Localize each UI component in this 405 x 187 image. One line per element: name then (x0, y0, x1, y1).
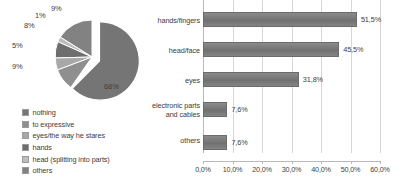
xtick-10 (233, 161, 234, 164)
xtick-30 (292, 161, 293, 164)
bar-value-label: 7,6% (231, 105, 247, 114)
legend-item-eyes-the-way-he-stares[interactable]: eyes/the way he stares (22, 130, 152, 142)
bar-value-label: 45,5% (343, 45, 363, 54)
bar-eyes[interactable] (203, 72, 299, 87)
bar-row-others[interactable]: 7,6% (203, 136, 248, 149)
legend-item-to-expressive[interactable]: to expressive (22, 119, 152, 131)
bar-value-label: 31,8% (303, 75, 323, 84)
xtick-label-50: 50,0% (341, 165, 360, 174)
legend-label: others (33, 166, 53, 175)
legend-item-hands[interactable]: hands (22, 142, 152, 154)
chart-page: 9% 1% 8% 5% 9% 68% nothing to expressive… (0, 0, 405, 187)
legend-swatch-icon (22, 109, 29, 116)
label-line: electronic parts (152, 101, 200, 110)
label-line: and cables (166, 110, 200, 119)
xtick-label-60: 60,0% (370, 165, 389, 174)
legend-label: hands (33, 143, 52, 152)
legend-item-nothing[interactable]: nothing (22, 107, 152, 119)
bar-row-hands-fingers[interactable]: 51,5% (203, 13, 381, 26)
bar-value-label: 7,6% (231, 138, 247, 147)
legend-item-others[interactable]: others (22, 165, 152, 177)
bar-value-label: 51,5% (361, 15, 381, 24)
bar-category-label-electronic-parts-and-cables: electronic parts and cables (140, 101, 200, 119)
bar-electronic-parts-and-cables[interactable] (203, 102, 227, 117)
pie-svg (0, 0, 150, 105)
pie-label-head: 1% (35, 11, 46, 20)
xtick-20 (262, 161, 263, 164)
bar-row-head-face[interactable]: 45,5% (203, 43, 363, 56)
label-line: hands/fingers (157, 16, 200, 25)
xtick-0 (203, 161, 204, 164)
pie-label-others: 9% (51, 4, 62, 13)
bar-category-label-head-face: head/face (140, 46, 200, 55)
bar-row-electronic-parts-and-cables[interactable]: 7,6% (203, 103, 248, 116)
xtick-label-40: 40,0% (311, 165, 330, 174)
pie-legend: nothing to expressive eyes/the way he st… (22, 107, 152, 177)
xtick-60 (380, 161, 381, 164)
xtick-50 (351, 161, 352, 164)
bar-row-eyes[interactable]: 31,8% (203, 73, 323, 86)
legend-label: nothing (33, 108, 56, 117)
xtick-label-0: 0,0% (195, 165, 211, 174)
legend-item-head-splitting-into-parts[interactable]: head (splitting into parts) (22, 153, 152, 165)
bar-chart-panel: hands/fingers head/face eyes electronic … (140, 0, 405, 187)
legend-swatch-icon (22, 167, 29, 174)
xtick-40 (321, 161, 322, 164)
label-line: head/face (169, 46, 200, 55)
bar-others[interactable] (203, 135, 227, 150)
label-line: others (180, 136, 200, 145)
pie-chart-graphic: 9% 1% 8% 5% 9% 68% (0, 0, 150, 105)
legend-label: eyes/the way he stares (33, 131, 105, 140)
legend-swatch-icon (22, 132, 29, 139)
xtick-label-30: 30,0% (282, 165, 301, 174)
legend-label: head (splitting into parts) (33, 155, 110, 164)
bar-head-face[interactable] (203, 42, 339, 57)
legend-label: to expressive (33, 120, 75, 129)
xtick-label-20: 20,0% (252, 165, 271, 174)
bar-category-label-eyes: eyes (140, 76, 200, 85)
legend-swatch-icon (22, 156, 29, 163)
pie-chart-panel: 9% 1% 8% 5% 9% 68% nothing to expressive… (0, 0, 150, 187)
pie-label-eyes: 5% (12, 41, 23, 50)
pie-label-to-expressive: 9% (12, 62, 23, 71)
xtick-label-10: 10,0% (223, 165, 242, 174)
pie-label-nothing: 68% (104, 82, 119, 91)
bar-category-label-others: others (140, 136, 200, 145)
pie-label-hands: 8% (24, 21, 35, 30)
legend-swatch-icon (22, 121, 29, 128)
bar-hands-fingers[interactable] (203, 12, 357, 27)
label-line: eyes (185, 76, 200, 85)
bar-category-label-hands-fingers: hands/fingers (140, 16, 200, 25)
legend-swatch-icon (22, 144, 29, 151)
